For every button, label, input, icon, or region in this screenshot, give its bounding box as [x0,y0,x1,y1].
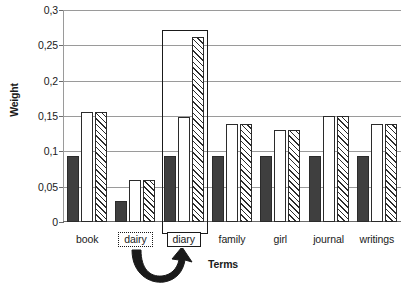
y-axis-tick-label: 0,05 [18,182,58,192]
y-axis-tick-labels: 00,050,10,150,20,250,3 [18,0,58,232]
bar-girl-series-b [274,130,286,222]
x-axis-tick-label: book [76,233,98,245]
x-axis-tick-label: family [219,233,246,245]
bar-writings-series-b [371,124,383,222]
bar-journal-series-c [337,116,349,222]
y-axis-tick-label: 0 [18,217,58,227]
bar-family-series-b [226,124,238,222]
bar-diary-series-a [164,156,176,222]
x-axis-tick-book: book [63,228,111,250]
x-axis-tick-label: journal [313,233,344,245]
bar-family-series-c [240,124,252,222]
bar-dairy-series-b [129,180,141,222]
x-axis-tick-girl: girl [256,228,304,250]
y-axis-tick-label: 0,15 [18,111,58,121]
bar-book-series-c [95,112,107,222]
x-axis-title: Terms [0,258,408,270]
bar-group-girl [256,10,304,222]
plot-area [63,10,401,222]
bar-dairy-series-c [143,180,155,222]
bar-group-dairy [111,10,159,222]
y-axis-tick-label: 0,3 [18,5,58,15]
bar-journal-series-a [309,156,321,222]
bar-diary-series-c [192,37,204,222]
bar-group-journal [304,10,352,222]
x-axis-tick-writings: writings [353,228,401,250]
bar-book-series-a [67,156,79,222]
x-axis-tick-labels: bookdairydiaryfamilygirljournalwritings [63,228,401,250]
bar-group-writings [353,10,401,222]
y-axis-tick-label: 0,25 [18,40,58,50]
x-axis-tick-diary: diary [160,228,208,250]
x-axis-tick-label: diary [167,232,201,247]
x-axis-tick-journal: journal [304,228,352,250]
x-axis-tick-label: dairy [118,232,152,247]
y-axis-tick-label: 0,2 [18,76,58,86]
x-axis-tick-family: family [208,228,256,250]
bar-diary-series-b [178,117,190,222]
curved-arrow-icon [128,248,200,290]
bar-chart: Weight 00,050,10,150,20,250,3 bookdairyd… [0,0,408,298]
bar-group-family [208,10,256,222]
x-axis-tick-dairy: dairy [111,228,159,250]
bar-family-series-a [212,156,224,222]
bars-layer [63,10,401,222]
bar-writings-series-c [385,124,397,222]
bar-journal-series-b [323,116,335,222]
y-axis-tickmark [59,222,64,223]
bar-girl-series-c [288,130,300,222]
bar-writings-series-a [357,156,369,222]
bar-group-diary [160,10,208,222]
bar-girl-series-a [260,156,272,222]
bar-book-series-b [81,112,93,222]
x-axis-tick-label: girl [273,233,287,245]
x-axis-tick-label: writings [359,233,394,245]
y-axis-tick-label: 0,1 [18,146,58,156]
bar-group-book [63,10,111,222]
bar-dairy-series-a [115,201,127,222]
